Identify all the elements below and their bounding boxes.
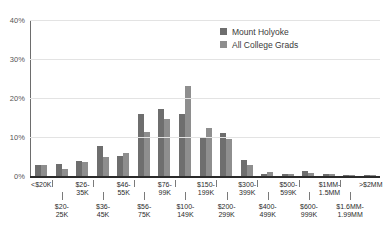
x-axis-tick-label: $600- 999K <box>289 203 329 220</box>
legend-label: All College Grads <box>232 40 298 50</box>
plot-area <box>30 20 380 178</box>
gridline <box>30 137 380 138</box>
x-axis-tick-mark <box>52 180 53 187</box>
bar <box>206 128 212 176</box>
x-axis-tick-label: $56- 75K <box>124 203 164 220</box>
y-axis-labels: 40%30%20%10%0% <box>0 20 28 178</box>
x-axis-tick-mark <box>93 180 94 187</box>
bar <box>267 172 273 176</box>
bar <box>308 173 314 177</box>
x-axis-tick-label: $400- 499K <box>248 203 288 220</box>
bar <box>144 132 150 176</box>
x-axis-tick-mark <box>216 180 217 187</box>
x-axis-tick-label: $1.6MM- 1.99MM <box>330 203 370 220</box>
chart-legend: Mount HolyokeAll College Grads <box>220 25 298 51</box>
gridline <box>30 59 380 60</box>
legend-item[interactable]: All College Grads <box>220 38 298 51</box>
x-axis-tick-label: $46- 55K <box>104 181 144 198</box>
bar <box>185 86 191 176</box>
x-axis-tick-label: $36- 45K <box>83 203 123 220</box>
y-axis-tick-label: 40% <box>10 16 25 25</box>
bar <box>164 119 170 176</box>
legend-label: Mount Holyoke <box>232 27 289 37</box>
x-axis-tick-mark <box>134 180 135 187</box>
x-axis-tick-label: $300- 399K <box>227 181 267 198</box>
x-axis-tick-mark <box>350 192 351 200</box>
legend-swatch-icon <box>220 41 227 48</box>
bar <box>82 162 88 176</box>
y-axis-tick-label: 0% <box>14 172 25 181</box>
x-axis-tick-label: $500- 599K <box>268 181 308 198</box>
x-axis-labels: <$20K$20- 25K$26- 35K$36- 45K$46- 55K$56… <box>31 180 381 229</box>
x-axis-tick-mark <box>340 180 341 187</box>
x-axis-tick-label: $100- 149K <box>165 203 205 220</box>
chart-container: 40%30%20%10%0% Mount HolyokeAll College … <box>0 0 387 229</box>
legend-item[interactable]: Mount Holyoke <box>220 25 298 38</box>
x-axis-tick-label: $1MM- 1.5MM <box>310 181 350 198</box>
bar <box>123 153 129 176</box>
bar <box>288 174 294 176</box>
bar <box>103 157 109 176</box>
y-axis-tick-label: 30% <box>10 55 25 64</box>
x-axis-tick-label: $200- 299K <box>207 203 247 220</box>
bar <box>62 169 68 176</box>
y-axis-tick-label: 20% <box>10 94 25 103</box>
x-axis-tick-label: $26- 35K <box>62 181 102 198</box>
x-axis-tick-label: >$2MM <box>351 181 387 189</box>
bar <box>329 174 335 176</box>
x-axis-tick-mark <box>257 180 258 187</box>
x-axis-tick-label: $20- 25K <box>42 203 82 220</box>
x-axis-tick-label: <$20K <box>21 181 61 189</box>
gridline <box>30 98 380 99</box>
bar <box>247 165 253 176</box>
bar <box>226 139 232 176</box>
bar <box>370 175 376 176</box>
y-axis-tick-label: 10% <box>10 133 25 142</box>
legend-swatch-icon <box>220 28 227 35</box>
bar <box>349 175 355 176</box>
x-axis-tick-mark <box>175 180 176 187</box>
bar <box>41 165 47 176</box>
x-axis-tick-label: $150- 199K <box>186 181 226 198</box>
x-axis-tick-mark <box>299 180 300 187</box>
x-axis-line <box>30 176 380 178</box>
x-axis-tick-label: $76- 99K <box>145 181 185 198</box>
gridline <box>30 20 380 21</box>
